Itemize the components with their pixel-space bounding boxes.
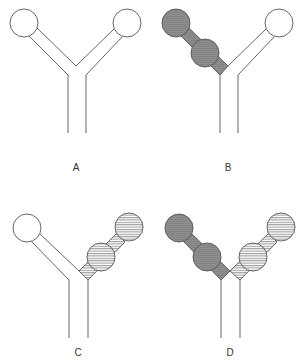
panel-label-a: A	[73, 162, 80, 173]
panel-label-d: D	[226, 347, 233, 358]
panel-a	[10, 9, 141, 133]
hatched-sphere-inner	[239, 243, 267, 271]
right-arm	[76, 9, 141, 75]
right-binding-site	[113, 9, 141, 37]
left-binding-site	[10, 9, 38, 37]
dark-sphere-outer	[162, 9, 190, 37]
panel-d	[165, 213, 295, 338]
dark-sphere-inner	[193, 243, 221, 271]
left-arm	[10, 9, 76, 75]
right-arm-occupied	[230, 213, 295, 280]
dark-sphere-outer	[165, 214, 193, 242]
right-binding-site	[265, 9, 293, 37]
dark-sphere-inner	[191, 39, 219, 67]
panel-label-b: B	[225, 162, 232, 173]
stem	[69, 280, 88, 338]
left-arm	[13, 214, 79, 280]
panel-label-c: C	[74, 347, 81, 358]
y-structure-diagram	[0, 0, 304, 362]
hatched-sphere-outer	[115, 213, 143, 241]
left-binding-site	[13, 214, 41, 242]
stem	[68, 75, 86, 133]
left-arm-occupied	[162, 9, 228, 75]
stem	[220, 75, 238, 133]
left-arm-occupied	[165, 214, 230, 280]
panel-c	[13, 213, 143, 338]
hatched-sphere-inner	[87, 243, 115, 271]
hatched-sphere-outer	[267, 213, 295, 241]
panel-b	[162, 9, 293, 133]
right-arm-occupied	[79, 213, 143, 280]
stem	[221, 280, 240, 338]
right-arm	[228, 9, 293, 75]
